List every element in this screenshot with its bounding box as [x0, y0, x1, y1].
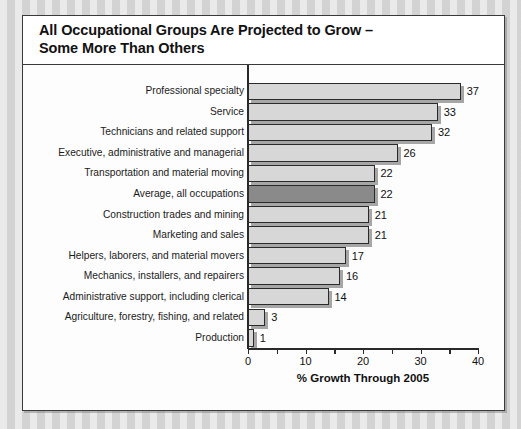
bar-value-label: 16 — [340, 271, 358, 282]
bar — [248, 165, 375, 183]
bar-category-label: Service — [210, 107, 248, 117]
figure-title-line-1: All Occupational Groups Are Projected to… — [39, 22, 373, 38]
bar-category-label: Transportation and material moving — [84, 168, 248, 178]
x-axis-tick — [306, 348, 307, 354]
bar-row: Service33 — [23, 102, 504, 123]
bar-value-label: 37 — [461, 86, 479, 97]
x-axis-title: % Growth Through 2005 — [248, 373, 478, 385]
bar — [248, 288, 329, 306]
bar-category-label: Production — [195, 333, 248, 343]
x-axis-tick — [248, 348, 249, 354]
bar — [248, 309, 265, 327]
bar-value-label: 22 — [375, 188, 393, 199]
bar-row: Mechanics, installers, and repairers16 — [23, 266, 504, 287]
bar-chart-plot-area: Professional specialty37Service33Technic… — [23, 65, 504, 410]
x-axis-tick-label: 20 — [357, 356, 369, 367]
x-axis-tick-label: 40 — [472, 356, 484, 367]
bar — [248, 247, 346, 265]
bar-category-label: Executive, administrative and managerial — [58, 148, 248, 158]
bar-row: Average, all occupations22 — [23, 184, 504, 205]
bar-row: Production1 — [23, 328, 504, 349]
bar-value-label: 14 — [329, 291, 347, 302]
bar-row: Executive, administrative and managerial… — [23, 143, 504, 164]
bar-category-label: Construction trades and mining — [103, 209, 248, 219]
bar-row: Marketing and sales21 — [23, 225, 504, 246]
bar-category-label: Professional specialty — [145, 86, 248, 96]
bar-value-label: 17 — [346, 250, 364, 261]
bar-row: Helpers, laborers, and material movers17 — [23, 245, 504, 266]
bar-value-label: 21 — [369, 209, 387, 220]
bar-row: Construction trades and mining21 — [23, 204, 504, 225]
bar — [248, 103, 438, 121]
figure-panel: All Occupational Groups Are Projected to… — [22, 15, 505, 411]
figure-title-line-2: Some More Than Others — [39, 40, 205, 56]
bar-row: Technicians and related support32 — [23, 122, 504, 143]
x-axis-tick — [478, 348, 479, 354]
x-axis-tick — [392, 348, 393, 354]
x-axis-tick — [449, 348, 450, 354]
bar-row: Professional specialty37 — [23, 81, 504, 102]
x-axis-tick-label: 0 — [245, 356, 251, 367]
bar — [248, 83, 461, 101]
bar-row: Administrative support, including cleric… — [23, 286, 504, 307]
bar — [248, 226, 369, 244]
bar-category-label: Helpers, laborers, and material movers — [68, 251, 248, 261]
bar-value-label: 21 — [369, 230, 387, 241]
bar-value-label: 32 — [432, 127, 450, 138]
bar-value-label: 22 — [375, 168, 393, 179]
x-axis-tick — [277, 348, 278, 354]
bar-value-label: 26 — [398, 147, 416, 158]
bar — [248, 144, 398, 162]
bar-row: Agriculture, forestry, fishing, and rela… — [23, 307, 504, 328]
bar — [248, 124, 432, 142]
bar-category-label: Technicians and related support — [100, 127, 248, 137]
bar-category-label: Agriculture, forestry, fishing, and rela… — [65, 312, 248, 322]
x-axis-tick-label: 30 — [414, 356, 426, 367]
x-axis-tick — [334, 348, 335, 354]
bar-rows: Professional specialty37Service33Technic… — [23, 81, 504, 348]
bar-category-label: Average, all occupations — [133, 189, 248, 199]
bar — [248, 206, 369, 224]
bar-highlighted — [248, 185, 375, 203]
x-axis-tick — [421, 348, 422, 354]
x-axis-tick — [363, 348, 364, 354]
bar-category-label: Mechanics, installers, and repairers — [84, 271, 248, 281]
x-axis-tick-label: 10 — [299, 356, 311, 367]
bar-value-label: 3 — [265, 312, 277, 323]
bar-row: Transportation and material moving22 — [23, 163, 504, 184]
bar — [248, 267, 340, 285]
bar-category-label: Administrative support, including cleric… — [63, 292, 248, 302]
bar-value-label: 1 — [254, 332, 266, 343]
bar-category-label: Marketing and sales — [153, 230, 248, 240]
bar-value-label: 33 — [438, 106, 456, 117]
figure-title-band: All Occupational Groups Are Projected to… — [23, 16, 504, 65]
